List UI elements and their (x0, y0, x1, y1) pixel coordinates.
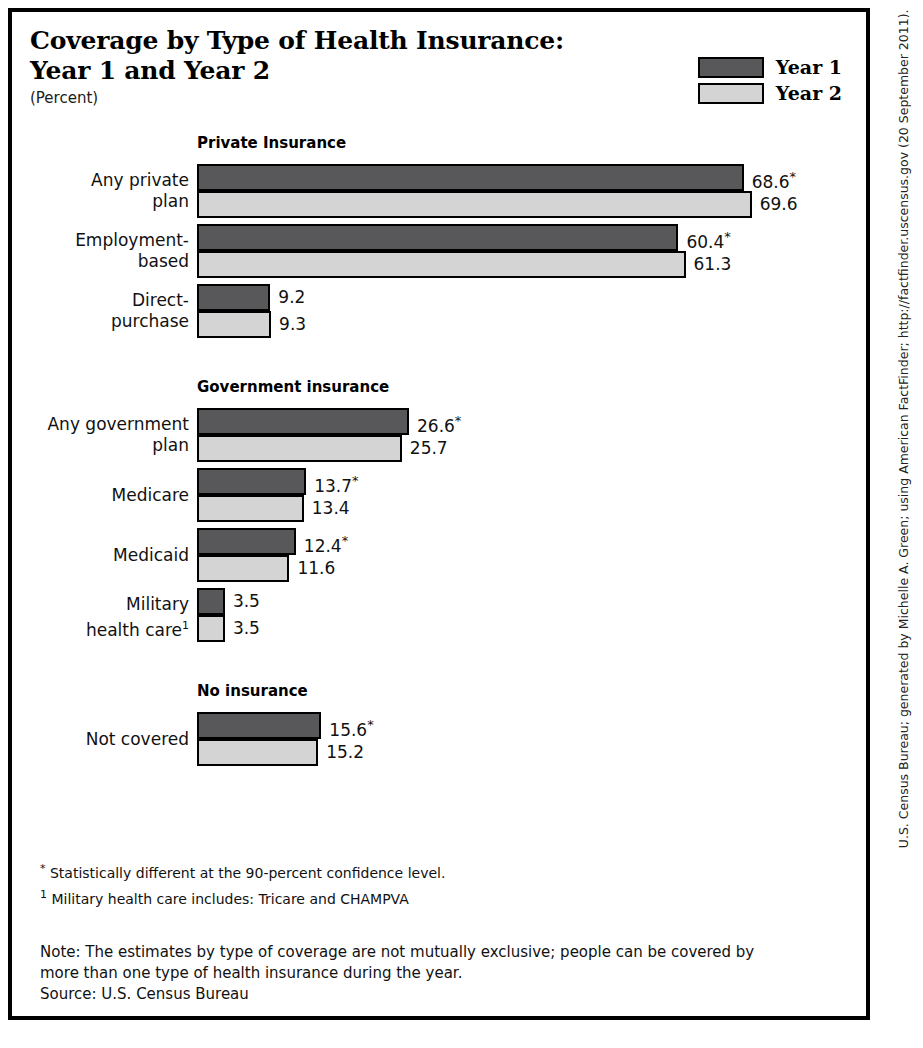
bar-row (197, 712, 321, 739)
note-line-1: Note: The estimates by type of coverage … (40, 942, 830, 963)
category-label: Medicare (14, 485, 189, 506)
category-label: Any governmentplan (14, 414, 189, 456)
bar-year2 (197, 191, 752, 218)
bar-row (197, 311, 271, 338)
bar-value-label: 13.7* (314, 470, 358, 497)
note-line-2: more than one type of health insurance d… (40, 963, 830, 984)
category-label: Not covered (14, 729, 189, 750)
bar-value-label: 9.2 (278, 286, 305, 308)
bar-year2 (197, 615, 225, 642)
significance-star: * (724, 229, 731, 244)
category-label-line: Employment- (14, 230, 189, 251)
bar-year1 (197, 408, 409, 435)
bar-value-label: 3.5 (233, 590, 260, 612)
footnote-1: * Statistically different at the 90-perc… (40, 858, 445, 884)
bar-value-label: 9.3 (279, 313, 306, 335)
category-label-line: Medicaid (14, 545, 189, 566)
chart-frame: Coverage by Type of Health Insurance: Ye… (8, 8, 870, 1020)
bar-year2 (197, 311, 271, 338)
category-label-line: purchase (14, 311, 189, 332)
bar-year1 (197, 588, 225, 615)
significance-star: * (342, 533, 349, 548)
bar-row (197, 164, 744, 191)
category-label-line: based (14, 251, 189, 272)
category-label-line: plan (14, 191, 189, 212)
category-label-line: Direct- (14, 290, 189, 311)
bar-row (197, 528, 296, 555)
bar-year2 (197, 251, 686, 278)
category-label-line: Military (14, 594, 189, 615)
credit-text: U.S. Census Bureau; generated by Michell… (896, 10, 911, 1030)
bar-row (197, 408, 409, 435)
section-header-3: No insurance (197, 682, 308, 700)
bar-value-label: 3.5 (233, 617, 260, 639)
footnotes: * Statistically different at the 90-perc… (40, 858, 445, 909)
bar-year1 (197, 468, 306, 495)
bar-row (197, 468, 306, 495)
bar-year2 (197, 495, 304, 522)
footnote-2: 1 Military health care includes: Tricare… (40, 884, 445, 910)
bar-value-label: 11.6 (297, 557, 335, 579)
source-line: Source: U.S. Census Bureau (40, 984, 830, 1005)
bar-value-label: 61.3 (694, 253, 732, 275)
bar-row (197, 191, 752, 218)
bar-value-label: 69.6 (760, 193, 798, 215)
section-header-2: Government insurance (197, 378, 389, 396)
bar-year2 (197, 739, 318, 766)
bar-row (197, 435, 402, 462)
significance-star: * (352, 473, 359, 488)
footnote-marker: * (40, 862, 46, 875)
bar-row (197, 251, 686, 278)
bar-year1 (197, 528, 296, 555)
chart-page: Coverage by Type of Health Insurance: Ye… (0, 0, 923, 1048)
bar-value-label: 15.6* (329, 714, 373, 741)
bar-year1 (197, 712, 321, 739)
category-label-line: health care1 (14, 615, 189, 641)
category-label: Any privateplan (14, 170, 189, 212)
bar-value-label: 15.2 (326, 741, 364, 763)
bar-row (197, 284, 270, 311)
bar-value-label: 12.4* (304, 530, 348, 557)
bar-value-label: 25.7 (410, 437, 448, 459)
significance-star: * (367, 717, 374, 732)
category-label-line: Any government (14, 414, 189, 435)
significance-star: * (455, 413, 462, 428)
bar-year1 (197, 224, 678, 251)
category-label-line: Any private (14, 170, 189, 191)
bar-value-label: 68.6* (752, 166, 796, 193)
category-label-line: plan (14, 435, 189, 456)
bar-value-label: 60.4* (686, 226, 730, 253)
footnote-marker: 1 (40, 888, 47, 901)
category-label-line: Medicare (14, 485, 189, 506)
credit-sidebar: U.S. Census Bureau; generated by Michell… (883, 0, 923, 1048)
category-label: Militaryhealth care1 (14, 594, 189, 641)
bar-row (197, 615, 225, 642)
significance-star: * (790, 169, 797, 184)
category-label: Direct-purchase (14, 290, 189, 332)
bar-value-label: 13.4 (312, 497, 350, 519)
bar-row (197, 555, 289, 582)
bar-year2 (197, 435, 402, 462)
category-label-line: Not covered (14, 729, 189, 750)
bar-year1 (197, 284, 270, 311)
category-label: Medicaid (14, 545, 189, 566)
bar-value-label: 26.6* (417, 410, 461, 437)
bar-row (197, 588, 225, 615)
bar-year1 (197, 164, 744, 191)
bar-row (197, 739, 318, 766)
footnote-marker: 1 (182, 619, 189, 632)
bar-row (197, 224, 678, 251)
bar-row (197, 495, 304, 522)
bar-year2 (197, 555, 289, 582)
category-label: Employment-based (14, 230, 189, 272)
note-block: Note: The estimates by type of coverage … (40, 942, 830, 1005)
section-header-1: Private Insurance (197, 134, 346, 152)
